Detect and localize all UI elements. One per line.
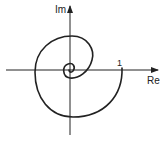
x-axis-label: Re [147,75,160,86]
y-axis-label: Im [55,4,66,15]
spiral-curve [35,36,122,117]
spiral-diagram: Im Re 1 [0,0,166,150]
real-tick-label: 1 [117,58,122,68]
